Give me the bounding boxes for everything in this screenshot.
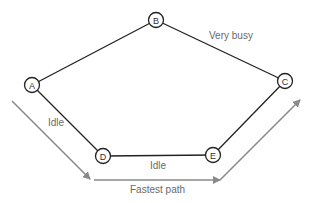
edge-a-d [32,85,103,156]
edge-label-idle-de: Idle [150,160,166,171]
node-c[interactable]: C [278,74,293,89]
edge-a-b [32,20,156,85]
fastest-path-label: Fastest path [130,184,185,195]
edge-label-very-busy: Very busy [209,30,253,41]
node-d[interactable]: D [96,149,111,164]
diagram-canvas: A B C D E [0,0,316,203]
edge-d-e [103,155,213,156]
edge-e-c [213,81,285,155]
edge-label-idle-ad: Idle [48,117,64,128]
path-arrow-1 [12,101,90,179]
node-a[interactable]: A [25,78,40,93]
svg-text:E: E [210,151,216,161]
node-b[interactable]: B [149,13,164,28]
network-diagram: A B C D E Very busy Idle Idle Fastest pa… [0,0,316,203]
svg-text:A: A [29,81,35,91]
svg-text:D: D [100,152,107,162]
node-e[interactable]: E [206,148,221,163]
path-arrow-3 [220,100,300,180]
svg-text:B: B [153,16,159,26]
svg-text:C: C [282,77,289,87]
